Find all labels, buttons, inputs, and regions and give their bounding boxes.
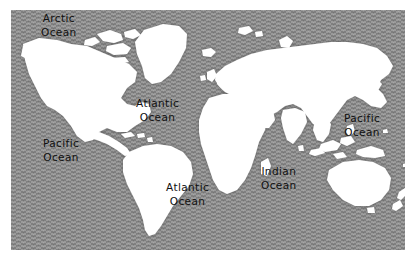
landmass-caribbean — [147, 137, 153, 142]
landmass-philippines — [346, 124, 355, 136]
landmass-new-guinea — [356, 146, 385, 158]
landmass-asia — [313, 118, 331, 142]
landmass-pacific-islands — [403, 163, 405, 167]
landmass-novaya-zemlya — [279, 36, 293, 48]
land-layer — [11, 10, 405, 250]
landmass-pacific-islands — [383, 129, 388, 133]
landmass-indonesia — [340, 136, 355, 146]
landmass-svalbard — [255, 31, 263, 37]
landmass-australia — [327, 160, 391, 206]
landmass-madagascar — [261, 158, 271, 176]
landmass-arctic-islands — [84, 37, 100, 46]
ocean-plate: Arctic Ocean Pacific Ocean Atlantic Ocea… — [11, 10, 405, 250]
landmass-svalbard — [238, 26, 253, 35]
landmass-greenland — [135, 24, 187, 84]
landmass-sri-lanka — [298, 145, 304, 151]
landmass-iceland — [202, 48, 216, 57]
landmass-new-zealand — [397, 188, 405, 200]
landmass-svg — [11, 10, 405, 250]
landmass-caribbean — [121, 132, 135, 138]
landmass-indonesia — [333, 152, 347, 159]
landmass-india — [281, 108, 307, 144]
landmass-north-america — [23, 38, 151, 142]
landmass-caribbean — [137, 133, 145, 138]
landmass-africa — [199, 94, 267, 194]
landmass-arctic-islands — [106, 43, 131, 55]
landmass-british-isles — [200, 75, 206, 81]
world-map-figure: Arctic Ocean Pacific Ocean Atlantic Ocea… — [0, 0, 414, 263]
landmass-arctic-islands — [97, 30, 123, 43]
landmass-australia — [367, 207, 375, 213]
landmass-south-america — [123, 144, 193, 236]
landmass-new-zealand — [392, 200, 403, 211]
